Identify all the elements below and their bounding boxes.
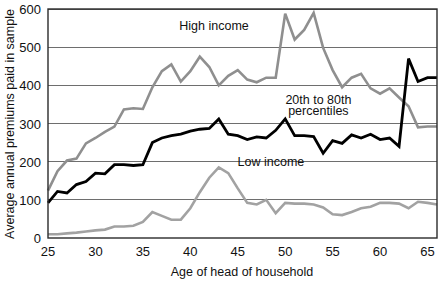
x-tick-30: 30 <box>88 244 102 259</box>
y-tick-100: 100 <box>19 193 41 208</box>
y-axis-title: Average annual premiums paid in sample <box>3 9 17 239</box>
x-axis-tick-labels: 253035404550556065 <box>41 244 435 259</box>
y-tick-200: 200 <box>19 155 41 170</box>
annotation-0: High income <box>179 19 249 33</box>
premiums-by-age-line-chart: 6005004003002001000 253035404550556065 H… <box>0 0 444 284</box>
x-tick-35: 35 <box>136 244 150 259</box>
y-tick-500: 500 <box>19 40 41 55</box>
x-tick-50: 50 <box>278 244 292 259</box>
x-tick-45: 45 <box>231 244 245 259</box>
x-axis-title: Age of head of household <box>171 265 314 279</box>
annotation-2: percentiles <box>288 104 348 118</box>
y-axis-tick-labels: 6005004003002001000 <box>19 2 41 246</box>
y-tick-600: 600 <box>19 2 41 17</box>
x-tick-25: 25 <box>41 244 55 259</box>
x-tick-40: 40 <box>183 244 197 259</box>
y-tick-400: 400 <box>19 78 41 93</box>
chart-container: 6005004003002001000 253035404550556065 H… <box>0 0 444 284</box>
x-tick-65: 65 <box>420 244 434 259</box>
annotation-3: Low income <box>238 155 305 169</box>
y-tick-300: 300 <box>19 117 41 132</box>
x-tick-55: 55 <box>325 244 339 259</box>
x-tick-60: 60 <box>373 244 387 259</box>
